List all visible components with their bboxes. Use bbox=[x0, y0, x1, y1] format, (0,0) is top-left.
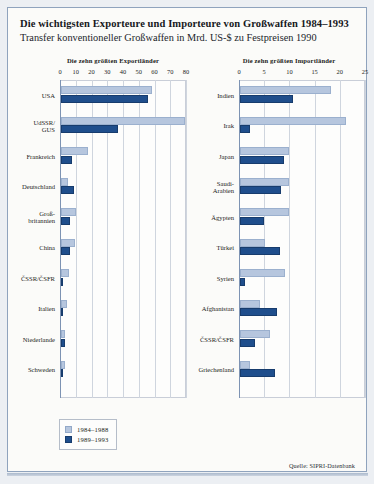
gridline bbox=[289, 80, 290, 398]
bar-1984-1988 bbox=[61, 269, 69, 277]
bar-1989-1993 bbox=[240, 369, 275, 377]
chart-heading-imports: Die zehn größten Importländer bbox=[214, 57, 364, 64]
category-label: China bbox=[14, 244, 55, 251]
x-tick-label: 50 bbox=[136, 68, 142, 75]
gridline bbox=[155, 80, 156, 398]
category-label: Griechenland bbox=[193, 366, 234, 373]
category-label: Saudi- Arabien bbox=[193, 180, 234, 195]
x-tick-label: 15 bbox=[311, 68, 317, 75]
chart-exports: 01020304050607080 USAUdSSR/ GUSFrankreic… bbox=[14, 68, 186, 398]
gridline bbox=[315, 80, 316, 398]
bar-1989-1993 bbox=[240, 125, 250, 133]
bar-1989-1993 bbox=[240, 308, 277, 316]
x-axis-exports: 01020304050607080 bbox=[14, 68, 186, 80]
bar-1984-1988 bbox=[61, 361, 65, 369]
x-tick-label: 20 bbox=[88, 68, 94, 75]
legend-item-1984-1988: 1984–1988 bbox=[65, 425, 108, 434]
page-subtitle: Transfer konventioneller Großwaffen in M… bbox=[20, 31, 356, 44]
category-label: Japan bbox=[193, 153, 234, 160]
category-label: Schweden bbox=[14, 366, 55, 373]
category-label: Italien bbox=[14, 305, 55, 312]
bar-1989-1993 bbox=[61, 369, 63, 377]
category-label: Ägypten bbox=[193, 214, 234, 221]
category-label: USA bbox=[14, 92, 55, 99]
category-label: Niederlande bbox=[14, 336, 55, 343]
bar-1984-1988 bbox=[240, 269, 285, 277]
category-label: Frankreich bbox=[14, 153, 55, 160]
legend-label-1989-1993: 1989–1993 bbox=[77, 436, 108, 443]
bar-1984-1988 bbox=[61, 147, 88, 155]
category-label: Groß- britannien bbox=[14, 210, 55, 225]
bar-1989-1993 bbox=[240, 217, 264, 225]
bar-1984-1988 bbox=[240, 208, 289, 216]
bar-1984-1988 bbox=[240, 300, 260, 308]
bar-1989-1993 bbox=[240, 278, 245, 286]
x-axis-imports: 0510152025 bbox=[193, 68, 365, 80]
x-tick-label: 80 bbox=[183, 68, 189, 75]
source-note: Quelle: SIPRI-Datenbank bbox=[289, 462, 355, 469]
bar-1989-1993 bbox=[61, 278, 63, 286]
legend-item-1989-1993: 1989–1993 bbox=[65, 435, 108, 444]
legend-swatch-dark-icon bbox=[65, 436, 72, 443]
bar-1989-1993 bbox=[240, 186, 281, 194]
gridline bbox=[170, 80, 171, 398]
bar-1984-1988 bbox=[61, 86, 152, 94]
bar-1984-1988 bbox=[61, 117, 185, 125]
bar-1989-1993 bbox=[61, 186, 74, 194]
bar-1989-1993 bbox=[61, 217, 70, 225]
gridline bbox=[340, 80, 341, 398]
bar-1984-1988 bbox=[240, 117, 346, 125]
category-label: Irak bbox=[193, 122, 234, 129]
bar-1989-1993 bbox=[240, 339, 255, 347]
infographic-page: Die wichtigsten Exporteure und Importeur… bbox=[0, 0, 374, 484]
gridline bbox=[139, 80, 140, 398]
bar-1989-1993 bbox=[61, 339, 65, 347]
bar-1984-1988 bbox=[240, 178, 289, 186]
category-label: ČSSR/ČSFR bbox=[193, 336, 234, 343]
plot-area-exports: USAUdSSR/ GUSFrankreichDeutschlandGroß- … bbox=[14, 80, 186, 398]
bar-1989-1993 bbox=[240, 95, 293, 103]
x-tick-label: 0 bbox=[237, 68, 240, 75]
legend: 1984–1988 1989–1993 bbox=[59, 419, 117, 450]
gridline bbox=[123, 80, 124, 398]
category-label: Syrien bbox=[193, 275, 234, 282]
x-tick-label: 20 bbox=[337, 68, 343, 75]
category-label: Deutschland bbox=[14, 183, 55, 190]
bar-1989-1993 bbox=[61, 308, 63, 316]
category-label: Afghanistan bbox=[193, 305, 234, 312]
gridline bbox=[365, 80, 366, 398]
x-tick-label: 10 bbox=[286, 68, 292, 75]
bar-1984-1988 bbox=[61, 239, 75, 247]
bar-1984-1988 bbox=[240, 86, 331, 94]
chart-imports: 0510152025 IndienIrakJapanSaudi- Arabien… bbox=[193, 68, 365, 398]
gridline bbox=[186, 80, 187, 398]
bar-1984-1988 bbox=[61, 208, 76, 216]
plot-area-imports: IndienIrakJapanSaudi- ArabienÄgyptenTürk… bbox=[193, 80, 365, 398]
page-title: Die wichtigsten Exporteure und Importeur… bbox=[20, 17, 356, 30]
x-tick-label: 0 bbox=[58, 68, 61, 75]
x-tick-label: 25 bbox=[362, 68, 368, 75]
bar-1984-1988 bbox=[240, 147, 289, 155]
category-label: UdSSR/ GUS bbox=[14, 119, 55, 134]
bar-1989-1993 bbox=[61, 125, 118, 133]
category-label: Indien bbox=[193, 92, 234, 99]
legend-label-1984-1988: 1984–1988 bbox=[77, 426, 108, 433]
x-tick-label: 60 bbox=[151, 68, 157, 75]
bar-1989-1993 bbox=[61, 247, 70, 255]
x-tick-label: 10 bbox=[73, 68, 79, 75]
category-label: ČSSR/ČSFR bbox=[14, 275, 55, 282]
bar-1984-1988 bbox=[240, 239, 265, 247]
bar-1989-1993 bbox=[61, 156, 72, 164]
page-bottom-shadow bbox=[7, 473, 368, 476]
category-label: Türkei bbox=[193, 244, 234, 251]
bar-1989-1993 bbox=[240, 156, 284, 164]
legend-swatch-light-icon bbox=[65, 426, 72, 433]
x-tick-label: 70 bbox=[167, 68, 173, 75]
bar-1984-1988 bbox=[240, 361, 250, 369]
bar-1984-1988 bbox=[240, 330, 270, 338]
chart-heading-exports: Die zehn größten Exportländer bbox=[38, 57, 188, 64]
bar-1984-1988 bbox=[61, 330, 65, 338]
bar-1989-1993 bbox=[240, 247, 280, 255]
x-tick-label: 30 bbox=[104, 68, 110, 75]
bar-1984-1988 bbox=[61, 300, 67, 308]
